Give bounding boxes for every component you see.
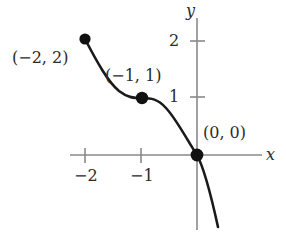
y-tick-label-2: 2 xyxy=(169,33,179,49)
coordinate-plot-svg xyxy=(0,0,286,233)
data-point-0-0 xyxy=(191,149,204,162)
graph-figure: y x 2 1 −2 −1 (−2, 2) (−1, 1) (0, 0) xyxy=(0,0,286,233)
point-label-neg2-2: (−2, 2) xyxy=(12,50,68,66)
y-tick-label-1: 1 xyxy=(169,89,179,105)
y-axis-label: y xyxy=(186,3,195,19)
x-tick-label-neg2: −2 xyxy=(74,168,98,184)
x-axis-label: x xyxy=(266,147,275,163)
point-label-neg1-1: (−1, 1) xyxy=(105,68,161,84)
x-tick-label-neg1: −1 xyxy=(130,168,154,184)
data-point-neg1-1 xyxy=(136,92,148,104)
point-label-0-0: (0, 0) xyxy=(203,125,246,141)
data-point-neg2-2 xyxy=(79,33,90,44)
